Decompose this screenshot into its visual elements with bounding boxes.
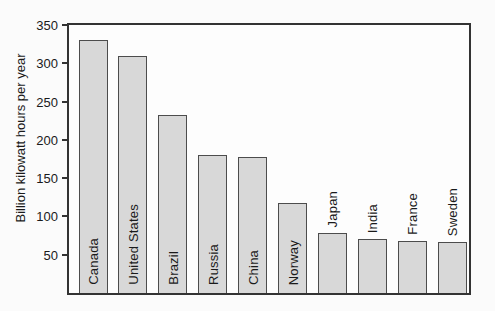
bar-label-canada: Canada bbox=[86, 238, 101, 285]
y-tick-label: 50 bbox=[16, 247, 58, 262]
bar-france bbox=[398, 241, 427, 293]
y-tick-label: 300 bbox=[16, 56, 58, 71]
y-tick-label: 250 bbox=[16, 94, 58, 109]
y-tick-label: 200 bbox=[16, 132, 58, 147]
bar-label-japan: Japan bbox=[325, 191, 340, 227]
bar-label-france: France bbox=[405, 193, 420, 235]
bar-label-norway: Norway bbox=[285, 240, 300, 285]
bar-label-sweden: Sweden bbox=[445, 188, 460, 236]
bar-india bbox=[358, 239, 387, 293]
y-tick-label: 150 bbox=[16, 171, 58, 186]
bar-label-united-states: United States bbox=[125, 204, 140, 285]
bar-label-brazil: Brazil bbox=[165, 251, 180, 285]
plot-area: CanadaUnited StatesBrazilRussiaChinaNorw… bbox=[67, 23, 471, 295]
bar-sweden bbox=[438, 242, 467, 293]
bar-japan bbox=[318, 233, 347, 293]
bar-chart: Billion kilowatt hours per year 35030025… bbox=[0, 0, 495, 311]
y-tick-label: 100 bbox=[16, 209, 58, 224]
bar-label-russia: Russia bbox=[205, 244, 220, 285]
bars-container: CanadaUnited StatesBrazilRussiaChinaNorw… bbox=[69, 25, 469, 293]
bar-label-india: India bbox=[365, 204, 380, 233]
y-tick-label: 350 bbox=[16, 18, 58, 33]
bar-label-china: China bbox=[245, 250, 260, 285]
